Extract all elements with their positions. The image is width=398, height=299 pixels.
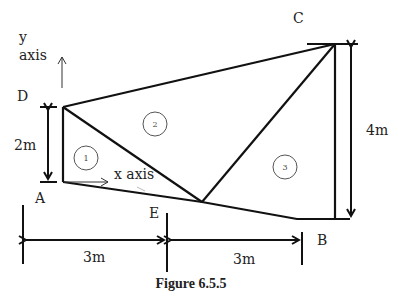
point-label-B: B xyxy=(317,232,327,248)
region-2-marker: 2 xyxy=(143,112,167,136)
dimension-EB-label: 3m xyxy=(233,251,255,267)
faint-mark xyxy=(137,187,145,191)
point-label-A: A xyxy=(34,190,46,206)
dimension-AD-label: 2m xyxy=(14,137,36,153)
region-1-marker: 1 xyxy=(74,146,98,170)
figure-canvas: 2m 4m 3m 3m y axis x axis D A C E B 1 2 … xyxy=(0,0,398,299)
region-3-label: 3 xyxy=(282,163,287,172)
point-label-C: C xyxy=(293,10,304,26)
region-3-marker: 3 xyxy=(273,155,297,179)
dimension-AE-label: 3m xyxy=(83,249,105,265)
y-axis-label-line1: y xyxy=(18,29,27,45)
dimension-CB-label: 4m xyxy=(366,122,388,138)
dimension-AD xyxy=(40,107,57,182)
point-label-D: D xyxy=(17,88,28,104)
edge-DC xyxy=(63,44,335,107)
figure-caption: Figure 6.5.5 xyxy=(156,276,227,291)
shape-outline xyxy=(63,44,350,219)
diagonal-C-vertex xyxy=(202,44,335,202)
point-label-E: E xyxy=(149,205,159,221)
region-1-label: 1 xyxy=(83,154,88,163)
edge-AB xyxy=(63,182,350,219)
region-2-label: 2 xyxy=(152,120,157,129)
x-axis-label: x axis xyxy=(114,166,154,182)
dimension-bottom xyxy=(23,205,302,272)
y-axis-label-line2: axis xyxy=(19,47,47,63)
